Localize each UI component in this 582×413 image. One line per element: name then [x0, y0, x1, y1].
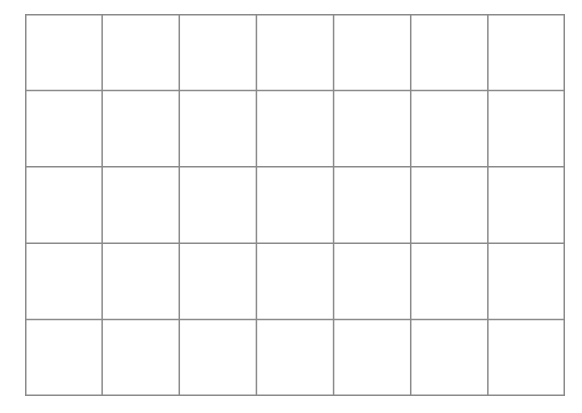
grid-cell	[256, 14, 333, 90]
grid-cell	[179, 320, 256, 396]
grid-cell	[256, 90, 333, 166]
grid-cell	[25, 243, 102, 319]
grid-cell	[411, 320, 488, 396]
grid-cell	[334, 14, 411, 90]
grid-cell	[411, 90, 488, 166]
grid-cell	[25, 167, 102, 243]
grid-cell	[256, 167, 333, 243]
grid-cell	[411, 167, 488, 243]
grid-cell	[334, 320, 411, 396]
grid-cell	[102, 320, 179, 396]
empty-grid-table	[25, 14, 565, 396]
grid-cell	[256, 243, 333, 319]
grid-cell	[334, 90, 411, 166]
grid-cell	[102, 90, 179, 166]
grid-cell	[179, 14, 256, 90]
grid-cell	[179, 90, 256, 166]
grid-cell	[25, 320, 102, 396]
grid-cell	[179, 243, 256, 319]
grid-cell	[488, 243, 565, 319]
grid-cell	[102, 14, 179, 90]
grid-cell	[488, 14, 565, 90]
grid-cell	[102, 167, 179, 243]
grid-cell	[179, 167, 256, 243]
grid-lines	[25, 14, 565, 396]
grid-cell	[411, 243, 488, 319]
grid-cell	[25, 90, 102, 166]
grid-cell	[488, 320, 565, 396]
grid-cell	[411, 14, 488, 90]
grid-cell	[488, 167, 565, 243]
grid-cell	[334, 243, 411, 319]
grid-cell	[334, 167, 411, 243]
grid-cell	[102, 243, 179, 319]
grid-cell	[488, 90, 565, 166]
grid-cell	[25, 14, 102, 90]
grid-cell	[256, 320, 333, 396]
